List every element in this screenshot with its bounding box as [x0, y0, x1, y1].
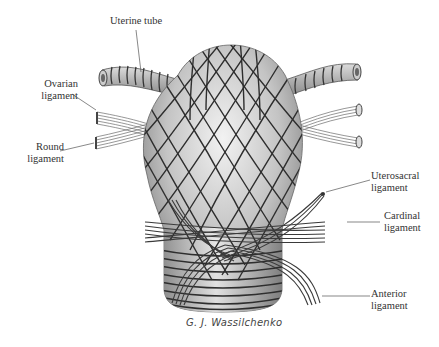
label-cardinal-line1: Cardinal: [384, 210, 421, 222]
label-round-line1: Round: [14, 141, 64, 153]
label-anterior-line1: Anterior: [371, 288, 408, 300]
label-anterior-line2: ligament: [371, 300, 408, 312]
label-uterosacral-line2: ligament: [371, 182, 419, 194]
uterine-tube-right: [285, 64, 361, 96]
label-ovarian-ligament: Ovarian ligament: [22, 78, 78, 102]
label-uterosacral-ligament: Uterosacral ligament: [371, 170, 419, 194]
label-ovarian-line2: ligament: [22, 90, 78, 102]
label-round-line2: ligament: [14, 153, 64, 165]
artist-signature: G. J. Wassilchenko: [186, 317, 283, 328]
label-cardinal-line2: ligament: [384, 222, 421, 234]
label-anterior-ligament: Anterior ligament: [371, 288, 408, 312]
label-uterine-tube: Uterine tube: [110, 15, 162, 27]
label-ovarian-line1: Ovarian: [22, 78, 78, 90]
uterus-ligament-diagram: Uterine tube Ovarian ligament Round liga…: [0, 0, 439, 347]
label-cardinal-ligament: Cardinal ligament: [384, 210, 421, 234]
label-uterosacral-line1: Uterosacral: [371, 170, 419, 182]
label-round-ligament: Round ligament: [14, 141, 64, 165]
